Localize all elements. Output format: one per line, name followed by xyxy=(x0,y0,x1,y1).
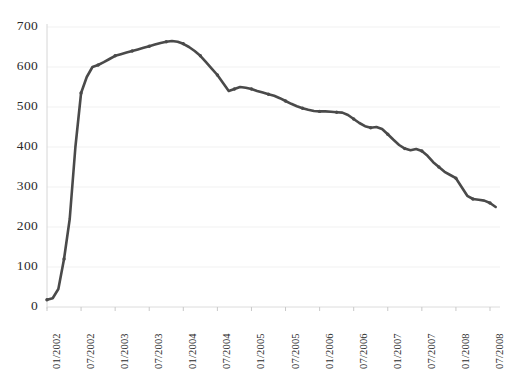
data-series-line xyxy=(47,41,496,300)
data-point-marker xyxy=(216,73,219,76)
data-point-marker xyxy=(420,149,423,152)
data-point-marker xyxy=(79,91,82,94)
x-axis-label-01-2006: 01/2006 xyxy=(324,333,335,369)
data-point-marker xyxy=(301,107,304,110)
data-point-marker xyxy=(335,111,338,114)
x-axis-label-01-2003: 01/2003 xyxy=(119,333,130,369)
data-point-marker xyxy=(96,63,99,66)
x-axis-label-01-2004: 01/2004 xyxy=(187,333,198,369)
y-axis-label-300: 300 xyxy=(4,178,38,194)
x-axis-label-07-2008: 07/2008 xyxy=(494,333,505,369)
x-axis-label-07-2007: 07/2007 xyxy=(426,333,437,369)
x-axis-label-07-2004: 07/2004 xyxy=(221,333,232,369)
data-point-marker xyxy=(62,257,65,260)
x-axis-label-07-2006: 07/2006 xyxy=(358,333,369,369)
data-point-marker xyxy=(148,45,151,48)
y-axis-label-200: 200 xyxy=(4,218,38,234)
x-axis-label-01-2008: 01/2008 xyxy=(460,333,471,369)
y-axis-label-400: 400 xyxy=(4,138,38,154)
data-point-marker xyxy=(352,117,355,120)
x-axis-label-07-2003: 07/2003 xyxy=(153,333,164,369)
y-axis-label-500: 500 xyxy=(4,98,38,114)
x-tick-marks-group xyxy=(47,307,490,311)
data-point-marker xyxy=(403,147,406,150)
data-point-marker xyxy=(386,133,389,136)
x-axis-label-01-2007: 01/2007 xyxy=(392,333,403,369)
y-axis-label-100: 100 xyxy=(4,258,38,274)
data-point-marker xyxy=(454,177,457,180)
gridlines-group xyxy=(47,27,500,307)
data-point-marker xyxy=(130,49,133,52)
data-point-marker xyxy=(250,87,253,90)
y-axis-label-600: 600 xyxy=(4,58,38,74)
data-point-marker xyxy=(199,54,202,57)
data-point-marker xyxy=(471,197,474,200)
data-point-markers-group xyxy=(45,40,491,301)
data-point-marker xyxy=(369,126,372,129)
x-axis-label-07-2002: 07/2002 xyxy=(85,333,96,369)
data-point-marker xyxy=(267,93,270,96)
x-axis-label-07-2005: 07/2005 xyxy=(290,333,301,369)
data-point-marker xyxy=(233,87,236,90)
data-point-marker xyxy=(113,54,116,57)
data-point-marker xyxy=(45,298,48,301)
data-point-marker xyxy=(165,40,168,43)
data-point-marker xyxy=(182,42,185,45)
data-point-marker xyxy=(284,99,287,102)
data-point-marker xyxy=(488,201,491,204)
x-axis-label-01-2005: 01/2005 xyxy=(255,333,266,369)
y-axis-label-700: 700 xyxy=(4,18,38,34)
y-axis-label-0: 0 xyxy=(4,298,38,314)
data-point-marker xyxy=(318,110,321,113)
x-axis-label-01-2002: 01/2002 xyxy=(51,333,62,369)
data-point-marker xyxy=(437,165,440,168)
